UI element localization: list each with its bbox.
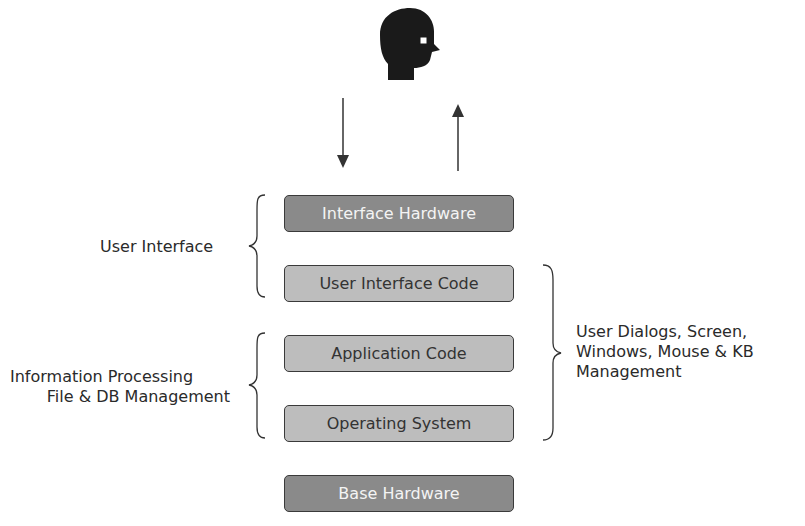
label-info-line1: Information Processing xyxy=(10,367,230,387)
layer-operating-system: Operating System xyxy=(284,405,514,442)
brace-user-dialogs xyxy=(543,265,561,440)
user-head-icon xyxy=(380,8,440,80)
brace-information-processing xyxy=(249,333,265,438)
layer-interface-hardware: Interface Hardware xyxy=(284,195,514,232)
label-dialogs-line3: Management xyxy=(576,362,754,382)
layer-label: Operating System xyxy=(327,414,472,433)
label-dialogs-line1: User Dialogs, Screen, xyxy=(576,322,754,342)
layer-label: Base Hardware xyxy=(338,484,459,503)
layer-label: Application Code xyxy=(331,344,466,363)
label-info-line2: File & DB Management xyxy=(10,387,230,407)
layer-application-code: Application Code xyxy=(284,335,514,372)
layer-label: User Interface Code xyxy=(319,274,478,293)
layer-label: Interface Hardware xyxy=(322,204,476,223)
layer-base-hardware: Base Hardware xyxy=(284,475,514,512)
brace-user-interface xyxy=(249,195,265,297)
label-dialogs-line2: Windows, Mouse & KB xyxy=(576,342,754,362)
label-info-processing: Information Processing File & DB Managem… xyxy=(10,367,230,407)
diagram-graphics xyxy=(0,0,805,526)
arrow-down-icon xyxy=(337,98,349,168)
layer-user-interface-code: User Interface Code xyxy=(284,265,514,302)
arrow-up-icon xyxy=(452,104,464,171)
label-user-dialogs: User Dialogs, Screen, Windows, Mouse & K… xyxy=(576,322,754,382)
label-user-interface: User Interface xyxy=(100,237,213,257)
